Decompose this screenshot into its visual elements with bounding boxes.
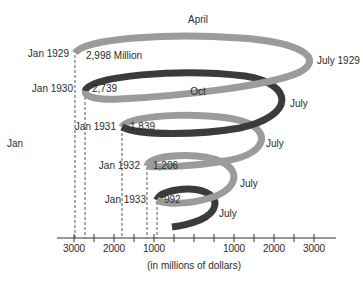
label-april: April [188,14,208,26]
label-jan: Jan [7,138,23,150]
label-july-1931: July [266,138,284,150]
label-oct: Oct [190,86,206,98]
label-jan-1931: Jan 1931 [75,121,116,133]
label-jan-1930: Jan 1930 [32,83,73,95]
label-jan-1933: Jan 1933 [105,194,146,206]
label-july-1933: July [219,208,237,220]
label-jan-1932: Jan 1932 [99,160,140,172]
tick-label-right-2000: 2000 [263,243,285,255]
value-1929: 2,998 Million [86,50,142,62]
tick-label-right-1000: 1000 [223,243,245,255]
tick-label-left-2000: 2000 [103,243,125,255]
value-1932: 1,206 [153,160,178,172]
tick-label-left-1000: 1000 [143,243,165,255]
tick-label-right-3000: 3000 [303,243,325,255]
axis-title: (in millions of dollars) [147,260,241,272]
tick-label-left-3000: 3000 [63,243,85,255]
value-1931: 1,839 [130,121,155,133]
label-july-1930: July [290,98,308,110]
value-1930: 2,739 [92,83,117,95]
label-july-1932: July [240,178,258,190]
label-jan-1929: Jan 1929 [28,48,69,60]
x-axis [57,234,336,242]
spiral-chart [0,0,363,281]
label-july-1929: July 1929 [317,55,360,67]
value-1933: 992 [164,194,181,206]
